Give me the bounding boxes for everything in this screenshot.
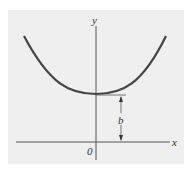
x-axis-label: x — [171, 136, 177, 148]
diagram: b y x 0 — [0, 0, 192, 172]
height-label: b — [118, 114, 124, 126]
origin-label: 0 — [87, 145, 93, 157]
y-axis-label: y — [91, 14, 97, 26]
